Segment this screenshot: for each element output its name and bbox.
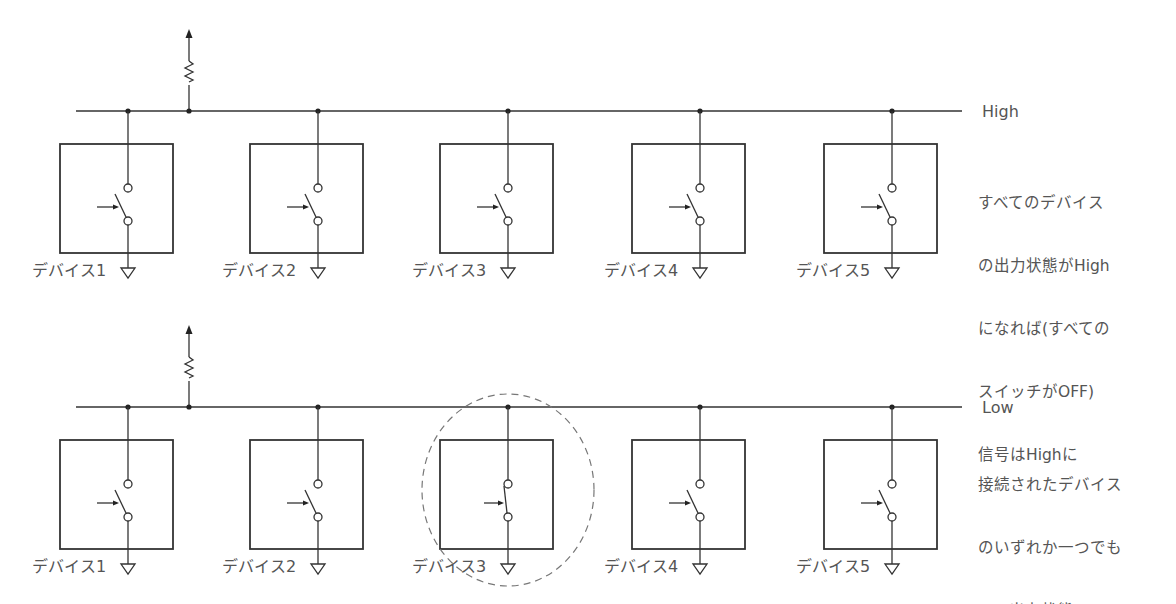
device-4 bbox=[632, 404, 745, 574]
device-label: デバイス3 bbox=[412, 261, 486, 280]
device-label: デバイス1 bbox=[32, 261, 106, 280]
device-5 bbox=[824, 404, 937, 574]
device-label: デバイス2 bbox=[222, 557, 296, 576]
device-4 bbox=[632, 108, 745, 278]
note-line: の出力状態がHigh bbox=[978, 256, 1110, 277]
device-5 bbox=[824, 108, 937, 278]
bus-label-high: High bbox=[982, 102, 1019, 121]
device-2 bbox=[250, 404, 363, 574]
device-label: デバイス4 bbox=[604, 261, 678, 280]
note-line: になれば(すべての bbox=[978, 319, 1110, 340]
device-label: デバイス3 bbox=[412, 557, 486, 576]
note-line: スイッチがOFF) bbox=[978, 382, 1110, 403]
note-low: 接続されたデバイス のいずれか一つでも Low出力状態(スイ ッチがON)になれ… bbox=[978, 433, 1122, 604]
device-label: デバイス5 bbox=[796, 261, 870, 280]
device-label: デバイス5 bbox=[796, 557, 870, 576]
note-line: 接続されたデバイス bbox=[978, 475, 1122, 496]
device-1 bbox=[60, 108, 173, 278]
panel-high bbox=[60, 29, 962, 278]
note-line: すべてのデバイス bbox=[978, 193, 1110, 214]
device-label: デバイス4 bbox=[604, 557, 678, 576]
pullup-resistor-icon bbox=[185, 29, 193, 111]
device-3-switch-on bbox=[440, 404, 553, 574]
panel-low bbox=[60, 325, 962, 586]
device-3 bbox=[440, 108, 553, 278]
device-label: デバイス1 bbox=[32, 557, 106, 576]
device-2 bbox=[250, 108, 363, 278]
device-1 bbox=[60, 404, 173, 574]
pullup-resistor-icon bbox=[185, 325, 193, 407]
device-label: デバイス2 bbox=[222, 261, 296, 280]
note-line: のいずれか一つでも bbox=[978, 538, 1122, 559]
